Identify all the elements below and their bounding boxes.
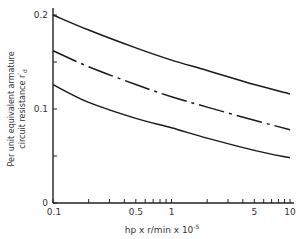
series-line-upper xyxy=(53,15,290,94)
y-tick-label: 0.1 xyxy=(34,104,48,114)
series-line-middle xyxy=(53,51,290,130)
series-line-lower xyxy=(53,85,290,158)
x-tick-label: 1 xyxy=(169,207,175,217)
svg-text:circuit resistance r'd: circuit resistance r'd xyxy=(16,69,28,149)
axes: 00.10.20.10.51510 xyxy=(34,8,296,217)
x-tick-label: 0.5 xyxy=(129,207,143,217)
svg-text:Per unit equivalent armature: Per unit equivalent armature xyxy=(7,51,16,166)
series-group xyxy=(53,15,290,158)
y-tick-label: 0.2 xyxy=(34,10,48,20)
y-axis-title: Per unit equivalent armature circuit res… xyxy=(7,51,28,166)
x-tick-label: 5 xyxy=(251,207,257,217)
x-axis-title: hp x r/min x 10-5 xyxy=(125,223,200,235)
x-tick-label: 10 xyxy=(284,207,296,217)
x-tick-label: 0.1 xyxy=(47,207,61,217)
chart: 00.10.20.10.51510 hp x r/min x 10-5 Per … xyxy=(0,0,304,239)
